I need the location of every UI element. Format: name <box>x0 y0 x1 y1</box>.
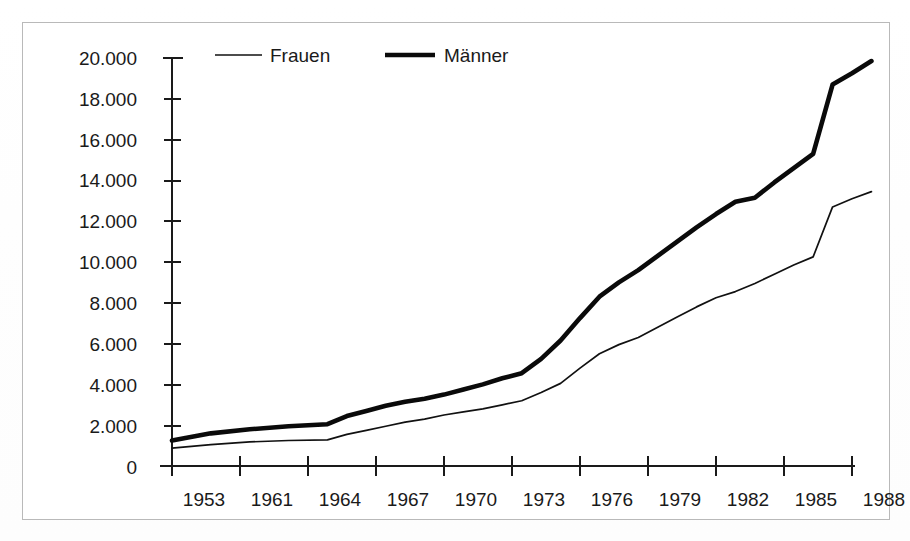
y-tick-label: 16.000 <box>79 130 137 151</box>
chart-svg: 20.000 18.000 16.000 14.000 12.000 10.00… <box>0 0 910 541</box>
x-tick-label: 1979 <box>659 489 701 510</box>
x-tick-label: 1970 <box>455 489 497 510</box>
y-tick-label: 14.000 <box>79 170 137 191</box>
scanned-page: 20.000 18.000 16.000 14.000 12.000 10.00… <box>0 0 910 541</box>
x-tick-label: 1985 <box>795 489 837 510</box>
x-tick-label: 1967 <box>387 489 429 510</box>
series-line-maenner <box>172 61 871 440</box>
legend-label-frauen: Frauen <box>270 45 330 66</box>
y-tick-label: 2.000 <box>89 416 137 437</box>
legend-label-maenner: Männer <box>444 45 509 66</box>
line-chart: 20.000 18.000 16.000 14.000 12.000 10.00… <box>0 0 910 541</box>
x-tick-label: 1976 <box>591 489 633 510</box>
y-tick-label: 8.000 <box>89 293 137 314</box>
x-tick-label: 1988 <box>863 489 905 510</box>
y-tick-label: 6.000 <box>89 334 137 355</box>
x-tick-label: 1964 <box>319 489 362 510</box>
y-tick-label: 10.000 <box>79 252 137 273</box>
x-tick-label: 1961 <box>251 489 293 510</box>
series-line-frauen <box>172 192 871 448</box>
y-tick-label: 18.000 <box>79 89 137 110</box>
x-tick-label: 1982 <box>727 489 769 510</box>
y-axis-tick-labels: 20.000 18.000 16.000 14.000 12.000 10.00… <box>79 48 137 478</box>
x-tick-label: 1973 <box>523 489 565 510</box>
y-tick-label: 12.000 <box>79 211 137 232</box>
y-tick-label: 20.000 <box>79 48 137 69</box>
x-axis-tick-labels: 1953 1961 1964 1967 1970 1973 1976 1979 … <box>183 489 905 510</box>
x-tick-label: 1953 <box>183 489 225 510</box>
y-tick-label: 0 <box>126 457 137 478</box>
y-tick-label: 4.000 <box>89 375 137 396</box>
chart-legend: Frauen Männer <box>215 45 509 66</box>
